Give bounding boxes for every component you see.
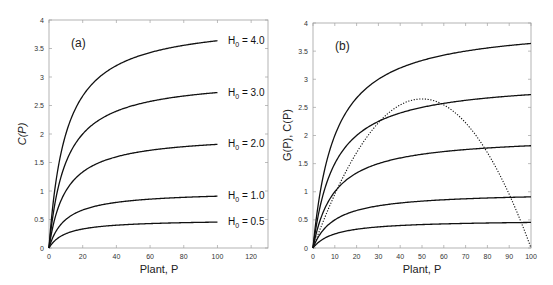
x-tick-label: 40	[112, 253, 120, 260]
x-tick-label: 40	[396, 253, 404, 260]
panel-a-chart: 020406080100120 00.511.522.533.54 H0 = 4…	[16, 17, 268, 276]
y-tick-label: 1.5	[34, 159, 44, 166]
curve-label: H0 = 1.0	[228, 190, 265, 203]
consumption-curve	[49, 144, 217, 248]
panel-a-x-axis-title: Plant, P	[140, 263, 179, 275]
x-tick-label: 100	[212, 253, 224, 260]
y-tick-label: 1.5	[298, 160, 308, 167]
x-tick-label: 10	[331, 253, 339, 260]
consumption-curve	[313, 43, 531, 248]
x-tick-label: 60	[146, 253, 154, 260]
panel-b-curves	[313, 43, 531, 248]
x-tick-label: 90	[505, 253, 513, 260]
x-tick-label: 60	[440, 253, 448, 260]
x-tick-label: 20	[79, 253, 87, 260]
y-tick-label: 3.5	[34, 45, 44, 52]
y-tick-label: 3.5	[298, 48, 308, 55]
x-tick-label: 0	[311, 253, 315, 260]
x-tick-label: 70	[462, 253, 470, 260]
x-tick-label: 80	[484, 253, 492, 260]
curve-label: H0 = 0.5	[228, 216, 265, 229]
y-tick-label: 0	[304, 245, 308, 252]
figure: 020406080100120 00.511.522.533.54 H0 = 4…	[0, 0, 553, 285]
panel-b-y-ticks: 00.511.522.533.54	[298, 20, 531, 252]
panel-a-curves	[49, 41, 217, 248]
y-tick-label: 2.5	[34, 102, 44, 109]
curve-label: H0 = 3.0	[228, 87, 265, 100]
x-tick-label: 80	[180, 253, 188, 260]
y-tick-label: 2	[304, 132, 308, 139]
panel-a-curve-labels: H0 = 4.0H0 = 3.0H0 = 2.0H0 = 1.0H0 = 0.5	[228, 35, 265, 229]
y-tick-label: 1	[304, 188, 308, 195]
y-tick-label: 1	[40, 188, 44, 195]
curve-label: H0 = 2.0	[228, 138, 265, 151]
x-tick-label: 20	[353, 253, 361, 260]
x-tick-label: 120	[245, 253, 257, 260]
panel-b-label: (b)	[335, 39, 350, 53]
panel-b-x-axis-title: Plant, P	[403, 263, 442, 275]
consumption-curve	[313, 222, 531, 248]
x-tick-label: 30	[375, 253, 383, 260]
x-tick-label: 100	[525, 253, 537, 260]
x-tick-label: 50	[418, 253, 426, 260]
y-tick-label: 4	[40, 17, 44, 24]
y-tick-label: 3	[40, 74, 44, 81]
y-tick-label: 2.5	[298, 104, 308, 111]
panel-a-y-axis-title: C(P)	[16, 122, 28, 145]
panel-b-chart: 0102030405060708090100 00.511.522.533.54…	[281, 20, 537, 276]
curve-label: H0 = 4.0	[228, 35, 265, 48]
y-tick-label: 4	[304, 20, 308, 27]
y-tick-label: 0	[40, 245, 44, 252]
consumption-curve	[313, 146, 531, 248]
y-tick-label: 0.5	[34, 216, 44, 223]
y-tick-label: 2	[40, 131, 44, 138]
x-tick-label: 0	[47, 253, 51, 260]
panel-a-label: (a)	[71, 36, 86, 50]
growth-curve-dotted	[313, 99, 531, 248]
panel-b-y-axis-title: G(P), C(P)	[281, 109, 293, 161]
y-tick-label: 3	[304, 76, 308, 83]
y-tick-label: 0.5	[298, 216, 308, 223]
consumption-curve	[49, 222, 217, 248]
